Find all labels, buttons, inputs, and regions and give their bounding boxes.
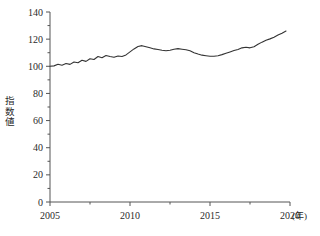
- y-tick-label-80: 80: [33, 88, 43, 99]
- data-series-line: [50, 31, 286, 66]
- x-tick-label-2005: 2005: [40, 210, 60, 221]
- x-tick-label-2015: 2015: [200, 210, 220, 221]
- y-tick-marks: [46, 12, 50, 202]
- y-tick-label-0: 0: [38, 197, 43, 208]
- y-tick-labels: 020406080100120140: [28, 7, 43, 208]
- y-tick-label-100: 100: [28, 61, 43, 72]
- y-tick-label-20: 20: [33, 169, 43, 180]
- line-chart-plot: 020406080100120140 2005201020152020 (年): [0, 0, 320, 236]
- chart-figure: 指 数 値 020406080100120140 200520102015202…: [0, 0, 320, 236]
- x-tick-label-2010: 2010: [120, 210, 140, 221]
- y-tick-label-40: 40: [33, 142, 43, 153]
- x-tick-labels: 2005201020152020: [40, 210, 300, 221]
- x-axis-unit-label: (年): [292, 210, 307, 221]
- y-tick-label-140: 140: [28, 7, 43, 18]
- y-tick-label-120: 120: [28, 34, 43, 45]
- x-tick-marks: [50, 202, 290, 206]
- y-tick-label-60: 60: [33, 115, 43, 126]
